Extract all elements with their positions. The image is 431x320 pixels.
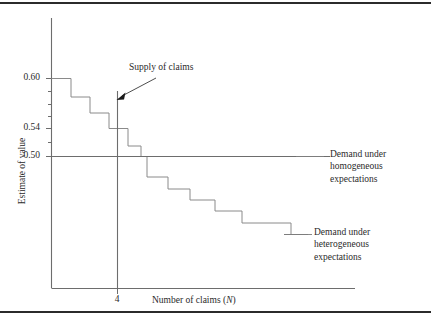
- demand-homogeneous-label: Demand under homogeneous expectations: [330, 148, 386, 185]
- y-axis-title: Estimate of value: [17, 111, 27, 231]
- supply-callout-leader: [122, 78, 156, 96]
- figure-root: 0.60 0.54 0.50 4 Estimate of value Numbe…: [0, 0, 431, 320]
- x-axis-title: Number of claims (N): [152, 295, 236, 306]
- demand-heterogeneous-label: Demand under heterogeneous expectations: [314, 226, 370, 263]
- x-axis-title-suffix: ): [232, 295, 235, 305]
- y-tick-label-060: 0.60: [8, 72, 40, 83]
- demand-heterogeneous-step-lower: [141, 157, 312, 235]
- x-tick-label-4: 4: [107, 294, 127, 305]
- demand-heterogeneous-step-upper: [52, 79, 142, 157]
- x-axis-title-prefix: Number of claims (: [152, 295, 226, 305]
- supply-callout-label: Supply of claims: [129, 62, 193, 73]
